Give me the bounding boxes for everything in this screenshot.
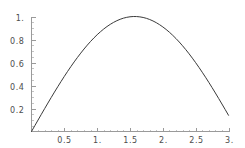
plot-background bbox=[0, 0, 245, 148]
x-tick-label: 0.5 bbox=[57, 136, 72, 145]
x-tick-label: 2. bbox=[159, 136, 168, 145]
plot-figure: 0.51.1.52.2.53. 0.20.40.60.81. bbox=[0, 0, 245, 148]
x-tick-label: 1. bbox=[93, 136, 102, 145]
y-tick-label: 0.4 bbox=[10, 83, 25, 92]
y-tick-label: 1. bbox=[16, 14, 25, 23]
y-tick-label: 0.6 bbox=[10, 60, 25, 69]
plot-canvas: 0.51.1.52.2.53. 0.20.40.60.81. bbox=[0, 0, 245, 148]
y-tick-label: 0.2 bbox=[10, 106, 25, 115]
x-tick-label: 3. bbox=[225, 136, 234, 145]
x-tick-label: 1.5 bbox=[123, 136, 138, 145]
y-tick-label: 0.8 bbox=[10, 37, 25, 46]
x-tick-label: 2.5 bbox=[189, 136, 204, 145]
